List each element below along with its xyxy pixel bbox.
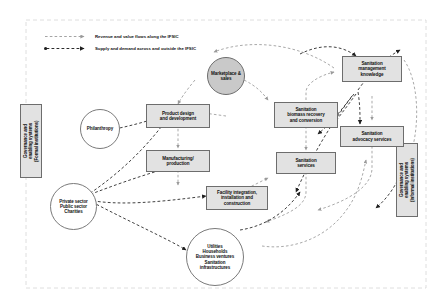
- ss-line2: services: [295, 163, 316, 168]
- ad-line2: advocacy services: [353, 137, 392, 142]
- node-governance-informal[interactable]: Governance and enabling systems (Informa…: [396, 143, 418, 217]
- node-governance-formal[interactable]: Governance and enabling systems (Formal …: [20, 104, 42, 178]
- node-management-knowledge[interactable]: Sanitation management knowledge: [342, 56, 402, 82]
- systems-diagram: Revenue and value flows along the IFSIC …: [0, 0, 446, 303]
- node-philanthropy[interactable]: Philanthropy: [80, 109, 120, 149]
- legend-swatch-supply-demand: [44, 45, 90, 52]
- node-marketplace-sales[interactable]: Marketplace & sales: [207, 57, 245, 95]
- pd-line2: and development: [160, 116, 196, 121]
- governance-informal-line3: (Informal institutions): [410, 158, 415, 202]
- node-advocacy-services[interactable]: Sanitation advocacy services: [340, 126, 404, 147]
- node-sanitation-services[interactable]: Sanitation services: [276, 152, 336, 174]
- legend-label-revenue: Revenue and value flows along the IFSIC: [95, 34, 179, 39]
- philanthropy-label: Philanthropy: [87, 126, 113, 131]
- node-facility-integration[interactable]: Facility integration, installation and c…: [206, 186, 268, 210]
- node-product-design[interactable]: Product design and development: [146, 104, 210, 128]
- legend-item-revenue: Revenue and value flows along the IFSIC: [44, 33, 179, 40]
- node-biomass-recovery[interactable]: Sanitation biomass recovery and conversi…: [274, 102, 338, 128]
- governance-formal-line2: enabling systems: [28, 120, 33, 161]
- fi-line3: construction: [217, 201, 257, 206]
- mk-line2: management: [358, 66, 385, 71]
- fi-line2: installation and: [217, 195, 257, 200]
- eu-line3: Business ventures: [196, 254, 234, 259]
- governance-informal-line2: enabling systems: [404, 158, 409, 202]
- legend-swatch-revenue: [44, 33, 90, 40]
- bm-line3: and conversion: [287, 118, 324, 123]
- eu-line5: infrastructures: [196, 265, 234, 270]
- legend-item-supply-demand: Supply and demand across and outside the…: [44, 45, 196, 52]
- governance-formal-line3: (Formal institutions): [34, 120, 39, 161]
- legend-label-supply-demand: Supply and demand across and outside the…: [95, 46, 196, 51]
- node-end-users[interactable]: Utilities Households Business ventures S…: [186, 228, 244, 286]
- mf-line2: production: [162, 161, 194, 166]
- node-private-public-charities[interactable]: Private sector Public sector Charities: [50, 183, 97, 230]
- mk-line3: knowledge: [358, 72, 385, 77]
- mp-line2: sales: [211, 76, 241, 81]
- node-manufacturing[interactable]: Manufacturing/ production: [146, 150, 210, 172]
- bm-line2: biomass recovery: [287, 112, 324, 117]
- pp-line3: Charities: [59, 209, 87, 214]
